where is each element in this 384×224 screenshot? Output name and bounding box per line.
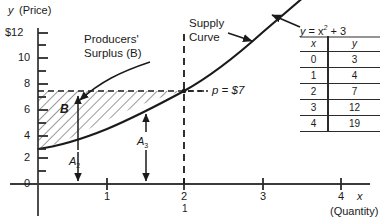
table-cell-y: 3 [328, 52, 380, 68]
table-header-x: x [300, 36, 328, 52]
table-header-y: y [328, 36, 380, 52]
table-row: 4 19 [300, 116, 380, 132]
producers-surplus-label-line2: Surplus (B) [84, 48, 142, 60]
y-axis-label: y [8, 5, 14, 16]
table-row: 2 7 [300, 84, 380, 100]
table-cell-x: 2 [300, 84, 328, 100]
y-tick-label-4: 4 [24, 130, 30, 141]
table-cell-y: 4 [328, 68, 380, 84]
supply-curve-figure: y (Price) $12 10 8 6 4 2 0 1 2 3 4 x (Qu… [0, 0, 384, 224]
y-tick-label-2: 2 [24, 152, 30, 163]
x-tick-label-2: 2 [181, 191, 187, 202]
a2-label: A2 [69, 156, 80, 169]
supply-curve-leader [228, 33, 252, 41]
table-row: 1 4 [300, 68, 380, 84]
y-tick-label-12: $12 [5, 27, 23, 38]
x-tick-label-4: 4 [338, 191, 344, 202]
y-tick-label-0: 0 [24, 178, 30, 189]
values-table: x y 0 3 1 4 2 7 3 12 4 19 [300, 36, 380, 132]
y-tick-label-8: 8 [24, 78, 30, 89]
a3-label: A3 [137, 136, 148, 149]
x-tick-label-1: 1 [104, 191, 110, 202]
table-cell-y: 19 [328, 116, 380, 132]
y-tick-label-6: 6 [24, 104, 30, 115]
x-axis-label: x [357, 191, 363, 202]
table-row: 3 12 [300, 100, 380, 116]
table-cell-x: 0 [300, 52, 328, 68]
x-tick-label-3: 3 [260, 191, 266, 202]
table-row: 0 3 [300, 52, 380, 68]
table-equation: y = x2 + 3 [300, 24, 346, 37]
region-b-label: B [60, 103, 69, 115]
producers-surplus-label-line1: Producers' [84, 34, 139, 46]
y-tick-label-10: 10 [18, 52, 30, 63]
y-axis-unit: (Price) [19, 5, 51, 16]
supply-curve-label-line1: Supply [189, 18, 224, 30]
table-cell-x: 4 [300, 116, 328, 132]
supply-curve-label-line2: Curve [189, 32, 220, 44]
footnote-marker: 1 [182, 204, 188, 214]
table-cell-x: 3 [300, 100, 328, 116]
table-header-row: x y [300, 36, 380, 52]
table-cell-x: 1 [300, 68, 328, 84]
table-cell-y: 7 [328, 84, 380, 100]
producers-surplus-region [38, 91, 184, 149]
equilibrium-point [182, 89, 187, 94]
price-label: p = $7 [212, 85, 244, 97]
table-cell-y: 12 [328, 100, 380, 116]
x-axis-unit: (Quantity) [330, 206, 378, 217]
